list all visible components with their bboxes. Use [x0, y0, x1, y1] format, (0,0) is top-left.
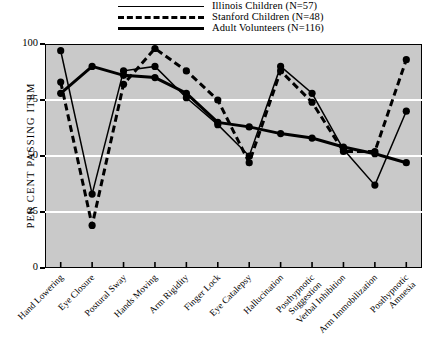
data-point: [183, 90, 190, 97]
legend-label-illinois: Illinois Children (N=57): [212, 0, 317, 11]
plot-area: [45, 44, 422, 268]
x-axis-label: Hand Lowering: [16, 273, 65, 322]
plot-lines: [45, 44, 422, 268]
data-point: [183, 67, 190, 74]
y-tick-label: 100: [8, 37, 38, 48]
data-point: [151, 45, 158, 52]
data-point: [57, 90, 64, 97]
data-point: [151, 63, 158, 70]
legend-swatch-stanford: [118, 16, 204, 19]
legend-swatch-adult: [118, 27, 204, 30]
y-tick-label: 25: [8, 205, 38, 216]
data-point: [403, 108, 410, 115]
data-point: [308, 99, 315, 106]
legend-item-adult: Adult Volunteers (N=116): [118, 24, 350, 34]
data-point: [277, 130, 284, 137]
data-point: [308, 134, 315, 141]
data-point: [277, 67, 284, 74]
y-tick-label: 75: [8, 93, 38, 104]
series-line: [61, 48, 407, 225]
y-tick-label: 0: [8, 261, 38, 272]
data-point: [308, 90, 315, 97]
chart-figure: Illinois Children (N=57) Stanford Childr…: [0, 0, 437, 352]
legend-swatch-illinois: [118, 6, 204, 7]
data-point: [246, 152, 253, 159]
data-point: [120, 81, 127, 88]
legend-label-stanford: Stanford Children (N=48): [212, 11, 324, 22]
data-point: [120, 72, 127, 79]
data-point: [340, 143, 347, 150]
chart-legend: Illinois Children (N=57) Stanford Childr…: [118, 2, 350, 34]
legend-label-adult: Adult Volunteers (N=116): [212, 22, 324, 33]
data-point: [371, 182, 378, 189]
data-point: [214, 119, 221, 126]
data-point: [246, 123, 253, 130]
data-point: [89, 63, 96, 70]
data-point: [403, 56, 410, 63]
data-point: [89, 222, 96, 229]
data-point: [214, 96, 221, 103]
data-point: [371, 150, 378, 157]
data-point: [57, 78, 64, 85]
data-point: [57, 47, 64, 54]
data-point: [89, 190, 96, 197]
data-point: [151, 74, 158, 81]
data-point: [246, 159, 253, 166]
y-tick-label: 50: [8, 149, 38, 160]
data-point: [403, 159, 410, 166]
